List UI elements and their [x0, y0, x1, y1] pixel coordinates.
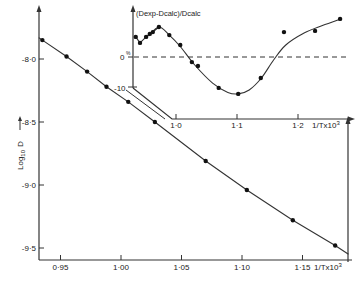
inset-x-tick-label: 1·1	[231, 121, 243, 130]
inset-x-tick-label: 1·0	[170, 121, 182, 130]
main-data-point	[245, 188, 249, 192]
inset-data-point	[196, 64, 200, 68]
main-y-axis-label: Log10D	[16, 141, 26, 170]
main-y-tick-label: -8·0	[22, 55, 37, 64]
main-y-tick-label: -8·5	[22, 118, 37, 127]
main-fit-line	[39, 38, 349, 255]
inset-data-point	[138, 41, 142, 45]
inset-axes	[128, 5, 355, 122]
main-y-tick-label: -9·0	[22, 181, 37, 190]
main-x-tick-label: 1·00	[113, 263, 130, 272]
main-x-tick-label: 1·05	[173, 263, 190, 272]
main-x-axis-label: 1/Tx103	[314, 262, 342, 272]
inset-y-tick-minus10: -10	[114, 84, 126, 93]
main-data-point	[40, 38, 44, 42]
main-data-point	[333, 243, 337, 247]
inset-data-point	[282, 30, 286, 34]
inset-x-axis-label: 1/Tx103	[312, 120, 340, 130]
inset-x-axis	[133, 88, 350, 119]
inset-x-tick-label: 1·2	[292, 121, 304, 130]
inset-y-axis-label: (Dexp-Dcalc)/Dcalc	[136, 9, 201, 18]
inset-data-point	[313, 29, 317, 33]
inset-data-point	[259, 76, 263, 80]
inset-data-point	[338, 17, 342, 21]
inset-data-point	[178, 43, 182, 47]
main-x-ticks: 0·951·001·051·101·15	[52, 255, 311, 272]
inset-data-point	[144, 35, 148, 39]
chart-canvas: 0·951·001·051·101·15 -8·0-8·5-9·0-9·5 Lo…	[0, 0, 362, 282]
main-y-tick-label: -9·5	[22, 244, 37, 253]
inset-data-point	[151, 30, 155, 34]
inset-data-point	[190, 60, 194, 64]
inset-y-tick-0: 0	[120, 53, 125, 62]
main-data-point	[126, 100, 130, 104]
main-x-tick-label: 1·15	[294, 263, 311, 272]
inset-x-ticks: 1·01·11·2	[170, 114, 304, 130]
inset-data-point	[167, 33, 171, 37]
inset-data-point	[217, 86, 221, 90]
inset-percent-label: %	[126, 50, 131, 56]
inset-data-point	[134, 35, 138, 39]
main-data-point	[85, 69, 89, 73]
inset-data-points	[134, 17, 343, 96]
main-x-tick-label: 0·95	[52, 263, 69, 272]
inset-x-axis-arrow	[348, 117, 355, 122]
inset-data-point	[157, 25, 161, 29]
main-data-point	[204, 159, 208, 163]
inset-data-point	[236, 92, 240, 96]
main-axes	[37, 5, 353, 262]
main-data-point	[153, 120, 157, 124]
inset-y-axis-arrow	[131, 5, 136, 12]
main-y-axis-arrow	[37, 5, 42, 12]
main-data-point	[291, 218, 295, 222]
main-x-tick-label: 1·10	[234, 263, 251, 272]
inset-fit-curve	[136, 19, 341, 94]
main-data-point	[64, 54, 68, 58]
main-data-point	[104, 85, 108, 89]
